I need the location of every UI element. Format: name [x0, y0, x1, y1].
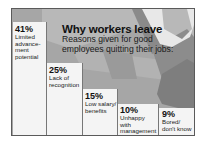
- chart-frame: Why workers leave Reasons given for good…: [11, 8, 195, 136]
- bar-limited-advancement: 41% Limited advance- ment potential: [13, 22, 47, 136]
- bar-label: Low salary/ benefits: [85, 101, 116, 114]
- bar-unhappy-management: 10% Unhappy with management: [118, 104, 159, 136]
- bar-bored: 9% Bored/ don't know: [159, 108, 195, 136]
- bar-label: Lack of recognition: [49, 75, 79, 88]
- bar-lack-of-recognition: 25% Lack of recognition: [47, 63, 83, 136]
- subtitle-line-2: employees quitting their jobs:: [62, 45, 173, 55]
- bar-label: Bored/ don't know: [162, 119, 191, 132]
- bar-label: Limited advance- ment potential: [15, 34, 40, 60]
- bar-low-salary: 15% Low salary/ benefits: [83, 89, 118, 136]
- bar-label: Unhappy with management: [120, 115, 156, 135]
- chart-subtitle: Reasons given for good employees quittin…: [62, 35, 173, 54]
